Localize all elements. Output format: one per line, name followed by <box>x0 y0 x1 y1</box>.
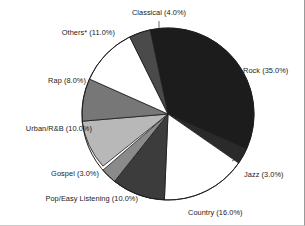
slice-label-pop-easy-listening: Pop/Easy Listening (10.0%) <box>45 194 138 203</box>
slice-label-rap: Rap (8.0%) <box>48 76 86 85</box>
slice-label-jazz: Jazz (3.0%) <box>244 170 284 179</box>
slice-label-urban-rnb: Urban/R&B (10.0%) <box>26 124 92 133</box>
slice-label-country: Country (16.0%) <box>188 208 243 217</box>
pie-slices <box>82 28 254 200</box>
slice-label-rock: Rock (35.0%) <box>243 66 288 75</box>
slice-label-gospel: Gospel (3.0%) <box>51 169 99 178</box>
pie-chart-figure: Classical (4.0%) Others* (11.0%) Rap (8.… <box>0 0 305 226</box>
slice-label-others: Others* (11.0%) <box>62 28 115 37</box>
pie-chart-canvas: Classical (4.0%) Others* (11.0%) Rap (8.… <box>0 0 305 226</box>
slice-label-classical: Classical (4.0%) <box>132 8 186 17</box>
